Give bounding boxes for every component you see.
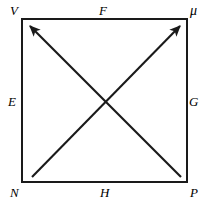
edge-label-bottom: H [100, 186, 109, 199]
edge-label-top: F [99, 4, 107, 17]
edge-label-right: G [189, 95, 198, 108]
vertex-label-bottom-left: N [10, 186, 19, 199]
vertex-label-top-left: V [10, 4, 18, 17]
vertex-label-bottom-right: P [190, 186, 198, 199]
vertex-label-top-right: μ [190, 4, 197, 18]
figure-canvas [0, 0, 205, 208]
edge-label-left: E [8, 95, 16, 108]
geometry-figure: V μ N P F E G H [0, 0, 205, 208]
